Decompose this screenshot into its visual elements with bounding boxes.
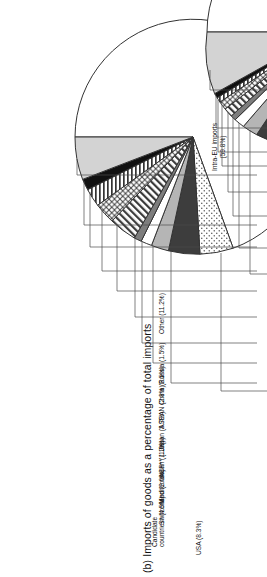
label-russia-imports: Russia (1.5%)	[158, 343, 166, 384]
label-usa-imports: USA (8.3%)	[195, 521, 203, 555]
label-other-imports: Other (11.2%)	[158, 293, 166, 334]
pie-exports-svg	[175, 0, 267, 182]
pie-exports	[175, 0, 267, 182]
figure-root: (b) Imports of goods as a percentage of …	[0, 0, 267, 577]
